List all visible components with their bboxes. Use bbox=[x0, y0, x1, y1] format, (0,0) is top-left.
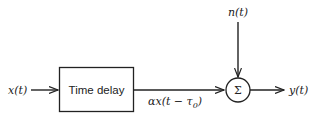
time-delay-label: Time delay bbox=[69, 84, 125, 96]
noise-signal-label: n(t) bbox=[228, 6, 248, 19]
time-delay-block: Time delay bbox=[60, 68, 134, 112]
block-diagram: x(t) Time delay αx(t − τ0) n(t) Σ y(t) bbox=[0, 0, 322, 119]
input-signal-label: x(t) bbox=[8, 84, 27, 97]
sigma-symbol: Σ bbox=[234, 84, 242, 97]
summing-junction: Σ bbox=[226, 78, 250, 102]
output-signal-label: y(t) bbox=[288, 84, 308, 97]
delayed-signal-label: αx(t − τ0) bbox=[148, 95, 202, 110]
